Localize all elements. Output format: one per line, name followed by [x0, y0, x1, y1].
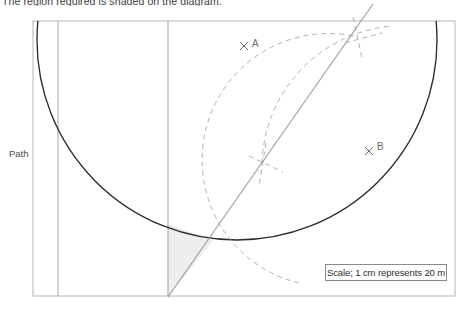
point-a-label: A — [252, 38, 259, 49]
path-lines-group — [58, 21, 168, 296]
point-b-marker — [365, 147, 373, 155]
construction-tick-upper-vert — [353, 17, 362, 58]
shaded-region-group — [168, 225, 214, 296]
map-frame — [33, 21, 455, 296]
construction-arcs-group — [202, 17, 392, 283]
construction-cross-upper — [345, 33, 382, 43]
shaded-region — [168, 225, 214, 296]
construction-cross-lower — [249, 156, 283, 172]
scale-legend-box: Scale; 1 cm represents 20 m — [325, 264, 447, 281]
construction-arc-from-b — [262, 26, 392, 163]
point-b-label: B — [377, 141, 384, 152]
diagram-page: The region required is shaded on the dia… — [0, 0, 472, 310]
construction-arc-from-a — [202, 34, 358, 283]
locus-circle — [37, 0, 437, 240]
path-label: Path — [9, 148, 29, 159]
scale-legend-text: Scale; 1 cm represents 20 m — [327, 267, 445, 278]
point-a-marker — [240, 42, 248, 50]
circle-group — [37, 0, 437, 240]
